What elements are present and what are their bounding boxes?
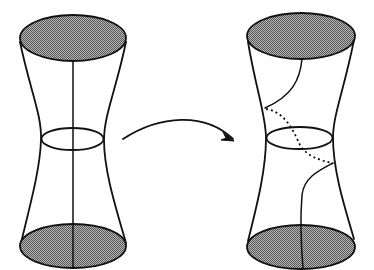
right-waist-ring: [267, 127, 333, 149]
right-tube-left-wall: [248, 42, 266, 241]
right-top-disk: [247, 13, 355, 59]
right-twisted-curve-hidden: [266, 109, 333, 163]
left-tube-right-wall: [104, 42, 126, 243]
arrow-shaft: [123, 120, 233, 139]
left-tube-left-wall: [20, 42, 41, 243]
left-top-disk: [20, 15, 126, 61]
diagram-canvas: [0, 0, 374, 270]
right-tube-right-wall: [333, 40, 354, 239]
right-twisted-curve-front-top: [265, 59, 302, 108]
right-tube: [247, 13, 355, 269]
mapping-arrow: [123, 120, 234, 141]
left-tube: [20, 15, 126, 268]
